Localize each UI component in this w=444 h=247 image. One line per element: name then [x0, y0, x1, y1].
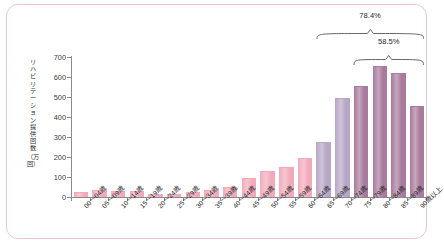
bar-slot — [407, 57, 426, 197]
bar-slot — [277, 57, 296, 197]
bar-slot — [220, 57, 239, 197]
bar[interactable] — [391, 73, 405, 197]
y-axis-tick-label: 100 — [26, 173, 66, 182]
y-axis-title-char: ハ — [24, 65, 42, 72]
bar-slot — [239, 57, 258, 197]
y-axis-tick-label: 500 — [26, 93, 66, 102]
bar-slot — [71, 57, 90, 197]
bar-slot — [146, 57, 165, 197]
bracket-label: 58.5% — [369, 37, 409, 46]
y-axis-tick-label: 300 — [26, 133, 66, 142]
y-axis-tick-label: 600 — [26, 73, 66, 82]
bar-slot — [258, 57, 277, 197]
y-axis-title-char: シ — [24, 101, 42, 108]
bar-slot — [127, 57, 146, 197]
bar[interactable] — [354, 86, 368, 197]
y-axis-tick-label: 700 — [26, 53, 66, 62]
bar-slot — [108, 57, 127, 197]
bar[interactable] — [335, 98, 349, 197]
bar-slot — [333, 57, 352, 197]
bar-slot — [389, 57, 408, 197]
y-axis-tick-label: 200 — [26, 153, 66, 162]
y-axis-tick-label: 400 — [26, 113, 66, 122]
bracket-label: 78.4% — [350, 11, 390, 20]
bar-slot — [164, 57, 183, 197]
bar-slot — [314, 57, 333, 197]
bar-slot — [90, 57, 109, 197]
bracket — [353, 52, 424, 64]
y-axis-tick-label: 0 — [26, 193, 66, 202]
bar-series — [71, 57, 426, 197]
bar-slot — [351, 57, 370, 197]
bar[interactable] — [373, 66, 387, 197]
y-axis-title-char: 数 — [24, 144, 42, 151]
bar-slot — [183, 57, 202, 197]
bar-slot — [202, 57, 221, 197]
y-axis-title-char: 提 — [24, 123, 42, 130]
bar-slot — [295, 57, 314, 197]
bar-slot — [370, 57, 389, 197]
bracket-curve-icon — [353, 54, 424, 66]
x-axis-tick — [71, 197, 72, 201]
